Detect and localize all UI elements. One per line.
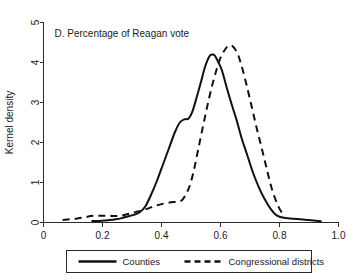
plot-title: D. Percentage of Reagan vote <box>55 28 190 39</box>
y-axis-title: Kernel density <box>4 91 15 154</box>
y-tick-label: 2 <box>30 139 41 145</box>
chart-canvas: 012345 00.20.40.60.81.0 Kernel density D… <box>0 0 364 280</box>
kernel-density-figure: 012345 00.20.40.60.81.0 Kernel density D… <box>0 0 364 280</box>
x-tick-label: 0.2 <box>96 230 110 241</box>
figure-background <box>0 0 364 280</box>
x-tick-label: 0.8 <box>273 230 287 241</box>
legend-label-counties: Counties <box>123 256 161 267</box>
x-tick-label: 1.0 <box>332 230 346 241</box>
y-tick-label: 4 <box>30 59 41 65</box>
y-tick-label: 0 <box>30 219 41 225</box>
y-tick-label: 5 <box>30 19 41 25</box>
x-tick-label: 0.4 <box>155 230 169 241</box>
x-tick-label: 0.6 <box>214 230 228 241</box>
x-tick-label: 0 <box>41 230 47 241</box>
chart-legend: CountiesCongressional districts <box>67 251 325 273</box>
y-tick-label: 1 <box>30 179 41 185</box>
legend-label-congressional-districts: Congressional districts <box>229 256 325 267</box>
y-tick-label: 3 <box>30 99 41 105</box>
